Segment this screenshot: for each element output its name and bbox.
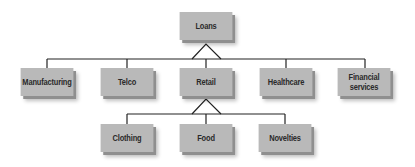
node-retail: Retail	[180, 68, 233, 96]
generalization-triangle-loans	[192, 44, 221, 59]
node-novelties: Novelties	[259, 124, 312, 152]
node-loans: Loans	[180, 12, 233, 40]
node-food: Food	[180, 124, 233, 152]
generalization-triangle-retail	[192, 99, 221, 114]
node-financial-services: Financial services	[338, 68, 391, 96]
node-manufacturing: Manufacturing	[21, 68, 74, 96]
node-telco: Telco	[101, 68, 154, 96]
node-clothing: Clothing	[101, 124, 154, 152]
node-healthcare: Healthcare	[260, 68, 313, 96]
